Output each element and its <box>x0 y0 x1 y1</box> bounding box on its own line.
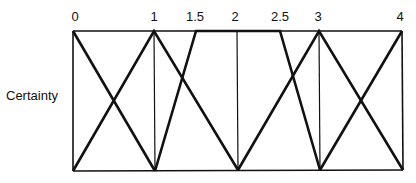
y-axis-label: Certainty <box>6 88 58 103</box>
tick-label-3: 3 <box>314 10 321 24</box>
tick-label-1-5: 1.5 <box>186 10 204 24</box>
set-3-line <box>238 31 403 170</box>
tick-label-0: 0 <box>71 10 78 24</box>
vertical-2 <box>237 31 238 170</box>
vertical-3 <box>319 31 320 170</box>
tick-label-4: 4 <box>396 10 403 24</box>
set-1-line <box>73 31 238 171</box>
frame-right <box>402 31 403 170</box>
tick-label-2: 2 <box>231 10 238 24</box>
frame-bottom <box>73 170 403 171</box>
tick-label-2-5: 2.5 <box>271 10 289 24</box>
tick-label-1: 1 <box>150 10 157 24</box>
vertical-1 <box>154 31 155 171</box>
membership-diagram <box>0 0 416 183</box>
